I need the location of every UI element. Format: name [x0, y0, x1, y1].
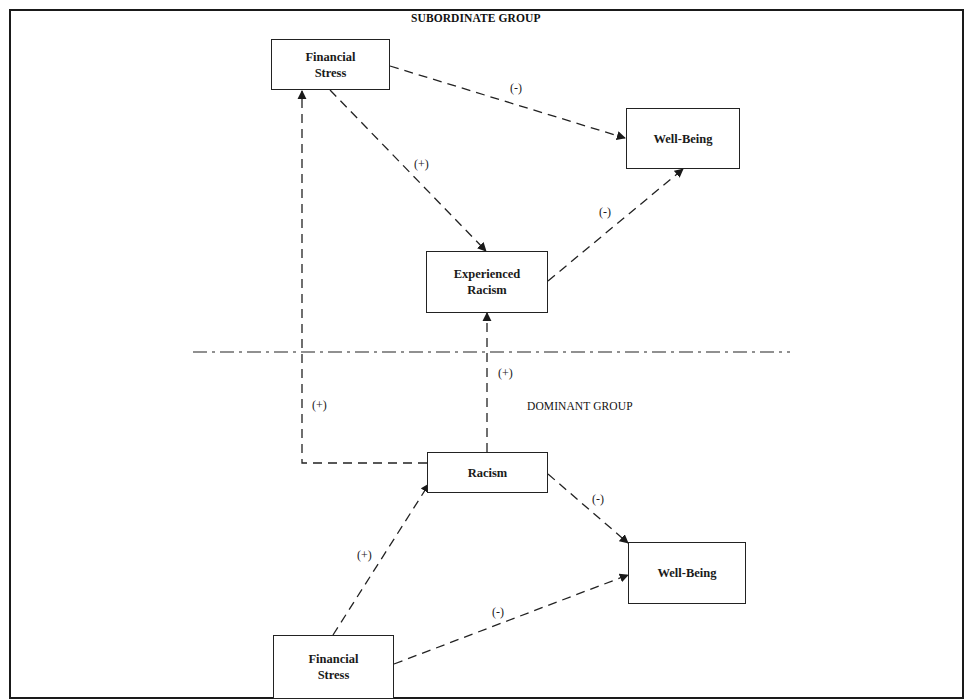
node-dom-well-being[interactable]: Well-Being: [628, 542, 746, 604]
edge-label-fs-racism: (+): [357, 548, 372, 563]
node-dom-financial-stress[interactable]: Financial Stress: [273, 635, 394, 699]
node-experienced-racism[interactable]: Experienced Racism: [426, 251, 548, 313]
edge-label-racism-fs: (+): [312, 398, 327, 413]
edge-label-racism-wb: (-): [592, 492, 604, 507]
edge-dom-financial-stress-to-racism: [333, 484, 429, 635]
edge-label-er-wb: (-): [599, 205, 611, 220]
edge-label-sub-fs-er: (+): [414, 157, 429, 172]
edge-sub-financial-stress-to-experienced-racism: [330, 90, 486, 251]
node-dom-racism[interactable]: Racism: [427, 452, 548, 493]
edge-experienced-racism-to-sub-well-being: [548, 169, 683, 281]
node-sub-financial-stress[interactable]: Financial Stress: [271, 39, 390, 90]
node-sub-well-being[interactable]: Well-Being: [626, 108, 740, 169]
subordinate-group-title: SUBORDINATE GROUP: [411, 12, 541, 24]
edge-dom-financial-stress-to-dom-well-being: [394, 575, 628, 664]
dominant-group-title: DOMINANT GROUP: [527, 400, 633, 412]
edge-label-fs-wb: (-): [492, 605, 504, 620]
edge-racism-to-dom-well-being: [548, 474, 628, 543]
edge-sub-financial-stress-to-sub-well-being: [390, 66, 625, 138]
edge-label-racism-er: (+): [498, 366, 513, 381]
edge-label-sub-fs-wb: (-): [510, 81, 522, 96]
